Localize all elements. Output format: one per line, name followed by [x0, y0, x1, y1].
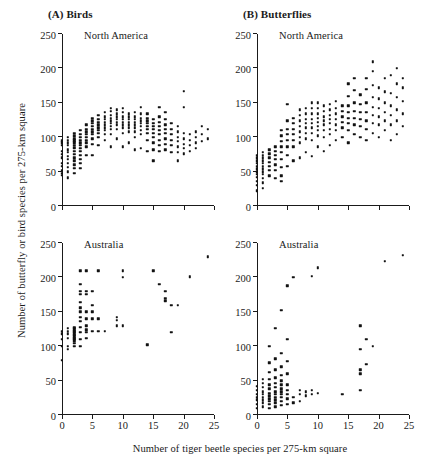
data-point [140, 106, 142, 108]
data-point [383, 120, 385, 122]
data-point [85, 311, 87, 313]
data-point [268, 157, 270, 159]
data-point [359, 111, 361, 113]
x-tick-label: 5 [285, 420, 290, 431]
data-point [347, 95, 349, 97]
panel-title-butterflies-australia: Australia [279, 239, 318, 250]
data-point [79, 162, 81, 164]
data-point [371, 122, 373, 124]
data-point [280, 135, 282, 137]
data-point [317, 125, 319, 127]
data-point [85, 293, 87, 295]
x-axis-spine [257, 414, 409, 415]
x-tick [123, 415, 124, 419]
x-tick [379, 206, 380, 210]
x-tick [184, 415, 185, 419]
data-point [304, 390, 306, 392]
data-point [91, 143, 93, 145]
data-point [286, 103, 288, 105]
data-point [116, 124, 118, 126]
data-point [341, 136, 343, 138]
data-point [304, 137, 306, 139]
data-point [116, 324, 118, 326]
x-tick-label: 15 [148, 420, 159, 431]
data-point [274, 357, 276, 359]
data-point [67, 337, 69, 339]
x-tick [257, 206, 258, 210]
data-point [323, 110, 325, 112]
data-point [359, 373, 361, 375]
data-point [268, 161, 270, 163]
data-point [73, 167, 75, 169]
data-point [383, 260, 385, 262]
data-point [140, 113, 142, 115]
data-point [182, 153, 184, 155]
data-point [347, 117, 349, 119]
x-tick-label: 5 [90, 420, 95, 431]
data-point [79, 167, 81, 169]
data-point [329, 114, 331, 116]
data-point [79, 320, 81, 322]
data-point [91, 330, 93, 332]
data-point [311, 275, 313, 277]
data-point [103, 139, 105, 141]
y-tick-label: 150 [40, 98, 56, 109]
data-point [280, 309, 282, 311]
data-point [134, 148, 136, 150]
data-point [377, 124, 379, 126]
data-point [176, 146, 178, 148]
y-tick-label: 100 [235, 132, 251, 143]
data-point [335, 113, 337, 115]
data-point [91, 137, 93, 139]
data-point [286, 146, 288, 148]
data-point [311, 113, 313, 115]
data-point [377, 97, 379, 99]
data-point [365, 338, 367, 340]
data-point [79, 269, 81, 271]
data-point [298, 142, 300, 144]
data-point [79, 129, 81, 131]
x-axis-spine [62, 414, 214, 415]
data-point [335, 129, 337, 131]
data-point [359, 118, 361, 120]
y-tick [58, 242, 62, 243]
data-point [97, 269, 99, 271]
data-point [134, 111, 136, 113]
data-point [262, 173, 264, 175]
data-point [274, 169, 276, 171]
data-point [335, 118, 337, 120]
data-point [79, 150, 81, 152]
data-point [286, 393, 288, 395]
data-point [67, 166, 69, 168]
data-point [158, 125, 160, 127]
data-point [292, 128, 294, 130]
data-point [311, 107, 313, 109]
data-point [128, 126, 130, 128]
data-point [274, 368, 276, 370]
data-point [317, 135, 319, 137]
data-point [280, 384, 282, 386]
data-point [103, 129, 105, 131]
panel-title-butterflies-north-america: North America [279, 30, 343, 41]
data-point [268, 153, 270, 155]
data-point [286, 154, 288, 156]
data-point [286, 128, 288, 130]
y-tick-label: 0 [51, 410, 56, 421]
data-point [146, 128, 148, 130]
data-point [122, 276, 124, 278]
data-point [188, 139, 190, 141]
data-point [122, 107, 124, 109]
data-point [170, 151, 172, 153]
data-point [85, 146, 87, 148]
plot-area-birds-north-america: 050100150200250 [62, 34, 214, 206]
data-point [201, 125, 203, 127]
data-point [347, 142, 349, 144]
data-point [329, 108, 331, 110]
data-point [67, 162, 69, 164]
data-point [97, 144, 99, 146]
y-tick [253, 136, 257, 137]
data-point [79, 301, 81, 303]
x-tick [409, 206, 410, 210]
data-point [280, 166, 282, 168]
data-point [268, 345, 270, 347]
